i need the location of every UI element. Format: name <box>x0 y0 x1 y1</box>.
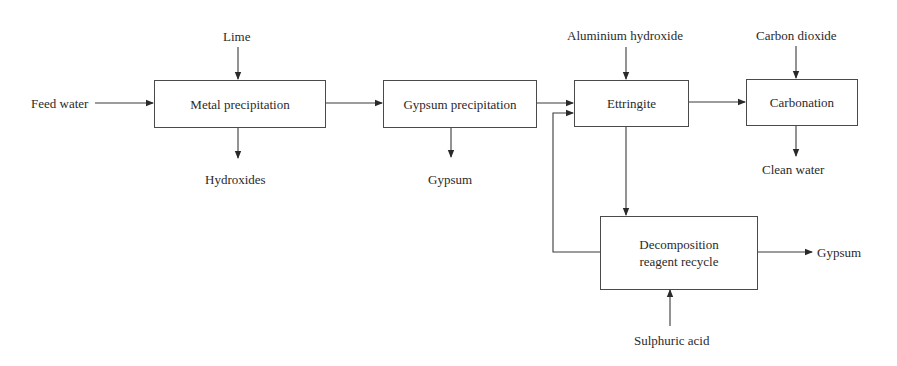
label-gypsum-2: Gypsum <box>817 245 861 260</box>
label-aluminium-hydroxide: Aluminium hydroxide <box>567 28 683 43</box>
node-carbonation: Carbonation <box>746 79 858 126</box>
node-label: Gypsum precipitation <box>403 96 516 113</box>
node-label-line2: reagent recycle <box>639 253 718 270</box>
arrow-recycle-to-ettringite <box>553 113 600 252</box>
label-clean-water: Clean water <box>762 162 824 177</box>
label-gypsum-1: Gypsum <box>428 172 472 187</box>
label-lime: Lime <box>223 29 250 44</box>
label-sulphuric-acid: Sulphuric acid <box>634 333 709 348</box>
node-label: Ettringite <box>607 95 656 112</box>
label-feed-water: Feed water <box>31 96 88 111</box>
process-flow-diagram: Metal precipitation Gypsum precipitation… <box>0 0 897 366</box>
node-gypsum-precipitation: Gypsum precipitation <box>383 80 537 128</box>
node-label: Metal precipitation <box>190 96 289 113</box>
node-ettringite: Ettringite <box>574 80 689 127</box>
node-decomposition-reagent-recycle: Decomposition reagent recycle <box>600 216 758 290</box>
node-metal-precipitation: Metal precipitation <box>154 80 326 128</box>
node-label-line1: Decomposition <box>639 236 718 253</box>
label-hydroxides: Hydroxides <box>205 172 266 187</box>
label-carbon-dioxide: Carbon dioxide <box>756 28 837 43</box>
node-label: Carbonation <box>770 94 834 111</box>
